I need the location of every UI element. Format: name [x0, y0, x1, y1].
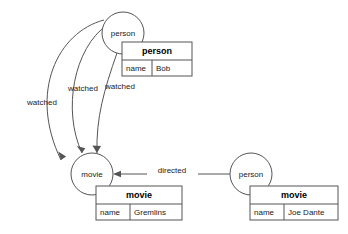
property-table-person-right[interactable]: movie name Joe Dante	[250, 186, 338, 220]
property-table-person-right-title: movie	[281, 190, 307, 200]
property-table-movie-left-value: Gremlins	[134, 208, 166, 217]
property-table-movie-left-key: name	[100, 208, 121, 217]
node-movie-left-label: movie	[81, 170, 103, 179]
edge-label-watched-middle: watched	[67, 84, 98, 93]
property-table-person-top-key: name	[126, 64, 147, 73]
edge-watched-middle[interactable]: watched	[67, 25, 107, 153]
property-table-movie-left-title: movie	[126, 190, 152, 200]
property-table-person-right-value: Joe Dante	[288, 208, 325, 217]
edge-label-watched-inner: watched	[104, 82, 135, 91]
edge-directed[interactable]: directed	[113, 166, 230, 177]
property-table-person-top[interactable]: person name Bob	[122, 42, 192, 76]
diagram-canvas: watched watched watched directed	[0, 0, 348, 234]
edge-label-watched-outer: watched	[26, 98, 57, 107]
edge-label-directed: directed	[158, 166, 186, 175]
property-graph-svg: watched watched watched directed	[0, 0, 348, 234]
edge-directed-arrowhead	[113, 171, 121, 177]
property-table-person-right-key: name	[254, 208, 275, 217]
node-person-top-label: person	[111, 29, 135, 38]
property-table-movie-left[interactable]: movie name Gremlins	[96, 186, 182, 220]
edge-watched-inner-path	[97, 53, 117, 153]
property-table-person-top-title: person	[142, 46, 172, 56]
edge-watched-inner-arrowhead	[92, 146, 101, 153]
node-person-right-label: person	[239, 170, 263, 179]
property-table-person-top-value: Bob	[156, 64, 171, 73]
